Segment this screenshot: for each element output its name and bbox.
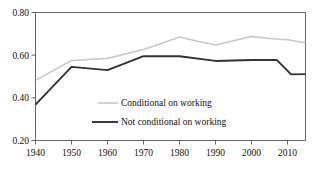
legend-label-0: Conditional on working [121, 98, 212, 108]
x-tick-label: 1940 [26, 148, 45, 158]
y-tick-label: 0.20 [12, 136, 29, 146]
x-axis-ticks [36, 141, 288, 145]
x-tick-label: 2000 [242, 148, 261, 158]
data-series-group [36, 36, 306, 104]
y-tick-label: 0.80 [12, 8, 29, 18]
y-tick-label: 0.60 [12, 51, 29, 61]
x-tick-label: 1970 [134, 148, 153, 158]
x-tick-label: 1950 [62, 148, 81, 158]
chart-legend: Conditional on workingNot conditional on… [92, 98, 227, 127]
x-tick-label: 1980 [170, 148, 189, 158]
series-line-0 [36, 36, 306, 80]
y-tick-label: 0.40 [12, 93, 29, 103]
x-tick-label: 1990 [206, 148, 225, 158]
x-tick-label: 2010 [278, 148, 297, 158]
line-chart: 0.200.400.600.80 19401950196019701980199… [0, 0, 316, 171]
chart-container: 0.200.400.600.80 19401950196019701980199… [0, 0, 316, 171]
y-axis-tick-labels: 0.200.400.600.80 [12, 8, 29, 146]
legend-label-1: Not conditional on working [121, 117, 227, 127]
x-axis-tick-labels: 19401950196019701980199020002010 [26, 148, 297, 158]
y-axis-ticks [32, 13, 36, 141]
series-line-1 [36, 56, 306, 104]
x-tick-label: 1960 [98, 148, 117, 158]
